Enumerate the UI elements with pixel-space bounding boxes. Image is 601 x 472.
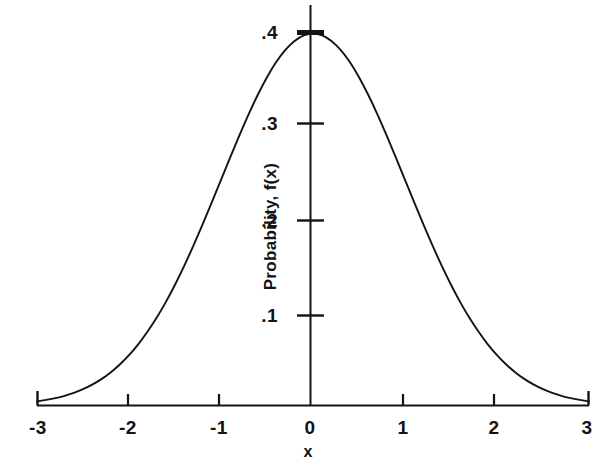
x-tick-label-plus-2: 2 [469, 418, 519, 437]
plot-canvas [0, 0, 601, 472]
x-tick-label-minus-1: -1 [194, 418, 244, 437]
x-tick-label-minus-3: -3 [13, 418, 63, 437]
x-tick-label-plus-1: 1 [378, 418, 428, 437]
y-tick-label-0-3: .3 [218, 114, 278, 133]
x-tick-label-minus-2: -2 [103, 418, 153, 437]
x-tick-label-0: 0 [285, 418, 335, 437]
x-axis-title: x [283, 444, 333, 460]
normal-distribution-figure: .4 .3 .2 .1 -3 -2 -1 0 1 2 3 x Probabili… [0, 0, 601, 472]
y-tick-label-0-4: .4 [218, 23, 278, 42]
y-tick-label-0-1: .1 [218, 306, 278, 325]
density-curve [37, 34, 589, 402]
y-axis-title: Probability, f(x) [262, 147, 279, 307]
x-tick-label-plus-3: 3 [562, 418, 601, 437]
